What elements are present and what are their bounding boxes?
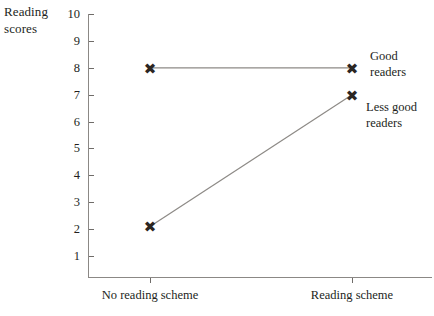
y-tick-mark <box>89 41 94 42</box>
y-tick-label: 7 <box>58 87 80 102</box>
data-point-marker: ✖ <box>144 60 157 75</box>
less-good-readers-line <box>150 95 352 227</box>
x-tick-mark <box>352 278 353 283</box>
y-tick-label: 1 <box>58 249 80 264</box>
data-point-marker: ✖ <box>346 87 359 102</box>
y-tick-mark <box>89 229 94 230</box>
y-tick-mark <box>89 202 94 203</box>
y-tick-label: 5 <box>58 141 80 156</box>
x-axis-line <box>88 277 432 278</box>
y-tick-mark <box>89 14 94 15</box>
y-tick-mark <box>89 175 94 176</box>
y-tick-mark <box>89 95 94 96</box>
y-tick-label: 2 <box>58 222 80 237</box>
y-tick-label: 6 <box>58 114 80 129</box>
y-tick-label: 3 <box>58 195 80 210</box>
y-tick-mark <box>89 148 94 149</box>
data-point-marker: ✖ <box>346 60 359 75</box>
y-tick-label: 8 <box>58 60 80 75</box>
x-tick-label: No reading scheme <box>102 288 199 303</box>
data-point-marker: ✖ <box>144 219 157 234</box>
series-label-less-good-readers: Less good readers <box>366 99 417 131</box>
y-tick-label: 4 <box>58 168 80 183</box>
y-tick-mark <box>89 122 94 123</box>
x-tick-label: Reading scheme <box>311 288 393 303</box>
y-tick-mark <box>89 68 94 69</box>
x-tick-mark <box>150 278 151 283</box>
y-tick-label: 9 <box>58 33 80 48</box>
y-axis-title: Reading scores <box>4 3 48 37</box>
reading-scores-line-chart: Reading scores 12345678910 No reading sc… <box>0 0 434 316</box>
y-tick-mark <box>89 256 94 257</box>
y-tick-label: 10 <box>58 7 80 22</box>
series-label-good-readers: Good readers <box>370 48 434 80</box>
y-axis-line <box>88 14 89 277</box>
